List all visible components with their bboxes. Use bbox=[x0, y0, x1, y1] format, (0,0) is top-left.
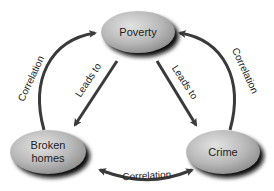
node-label-broken: Broken bbox=[31, 139, 66, 151]
node-broken-homes: Broken homes bbox=[10, 130, 90, 178]
diagram-canvas: Poverty Broken homes Crime Correlation C… bbox=[0, 0, 274, 191]
node-label-homes: homes bbox=[31, 152, 65, 164]
diagram-svg: Poverty Broken homes Crime Correlation C… bbox=[0, 0, 274, 191]
edge-label-correlation-bottom: Correlation bbox=[122, 169, 171, 183]
node-label-poverty: Poverty bbox=[119, 26, 157, 38]
node-crime: Crime bbox=[186, 130, 264, 178]
node-label-crime: Crime bbox=[208, 146, 237, 158]
edge-label-leads-to-right: Leads to bbox=[170, 63, 200, 102]
edge-label-leads-to-left: Leads to bbox=[73, 61, 103, 100]
node-poverty: Poverty bbox=[101, 11, 179, 57]
